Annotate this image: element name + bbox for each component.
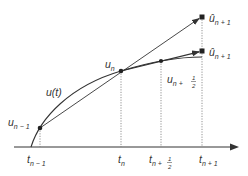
solution-curve bbox=[31, 57, 202, 147]
label-u-hat-top: ûn + 1 bbox=[209, 12, 231, 26]
tick-label-t-half-frac-num: 1 bbox=[168, 156, 171, 162]
extrapolation-line-top bbox=[40, 19, 199, 129]
label-u-n: un bbox=[105, 58, 115, 72]
point-u-hat-top bbox=[200, 15, 205, 20]
tick-label-t-next: tn + 1 bbox=[199, 153, 218, 167]
point-u-hat-low bbox=[200, 49, 205, 54]
tick-label-t-half-frac-den: 2 bbox=[167, 164, 172, 170]
tick-label-t-half: tn + bbox=[149, 153, 162, 167]
tick-label-t-n: tn bbox=[118, 153, 125, 167]
label-u-half: un + bbox=[167, 73, 183, 87]
label-u-prev: un − 1 bbox=[8, 116, 30, 130]
label-curve-u-t: u(t) bbox=[46, 86, 62, 98]
point-u-prev bbox=[38, 126, 43, 131]
label-u-hat-low: ûn + 1 bbox=[209, 46, 231, 60]
label-u-half-frac-den: 2 bbox=[191, 83, 196, 89]
time-stepping-diagram: ûn + 1 ûn + 1 un un + 1 2 un − 1 u(t) tn… bbox=[0, 0, 248, 176]
point-u-half bbox=[159, 59, 163, 63]
tick-label-t-prev: tn − 1 bbox=[27, 153, 46, 167]
label-u-half-frac-num: 1 bbox=[192, 75, 195, 81]
point-u-n bbox=[119, 69, 124, 74]
axis-arrow-icon bbox=[230, 144, 239, 151]
